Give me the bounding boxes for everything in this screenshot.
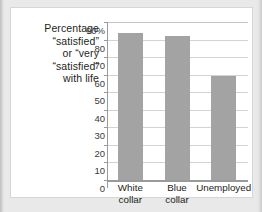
x-axis-tick-label: Unemployed	[196, 182, 252, 194]
y-axis-tick-label: 20	[71, 147, 105, 158]
y-axis-tick-label: 0	[71, 183, 105, 194]
y-axis-tickmark	[104, 180, 108, 181]
chart-card: Percentage “satisfied” or “very “satisfi…	[10, 7, 253, 198]
y-axis-tick-label: 60	[71, 77, 105, 88]
x-axis-tick-labels: WhitecollarBluecollarUnemployed	[101, 182, 253, 212]
page-left-edge	[0, 0, 4, 212]
bar-series	[107, 22, 247, 180]
y-axis-tick-label: 10	[71, 165, 105, 176]
y-axis-tick-label: 70	[71, 60, 105, 71]
y-axis-tick-labels: 0102030405060708090%	[71, 22, 105, 188]
x-axis-tick-label-line: collar	[149, 194, 205, 206]
x-axis-tick-label-line: Unemployed	[196, 182, 252, 194]
bar	[118, 33, 143, 180]
y-axis-tick-label: 50	[71, 95, 105, 106]
bar	[211, 76, 236, 180]
y-axis-tick-label: 90%	[71, 25, 105, 36]
figure-root: Percentage “satisfied” or “very “satisfi…	[0, 0, 262, 212]
y-axis-tick-label: 30	[71, 130, 105, 141]
y-axis-tick-label: 40	[71, 112, 105, 123]
bar	[165, 36, 190, 180]
y-axis-tick-label: 80	[71, 42, 105, 53]
bar-chart: 0102030405060708090% WhitecollarBluecoll…	[107, 22, 247, 188]
page-right-edge	[257, 0, 262, 212]
